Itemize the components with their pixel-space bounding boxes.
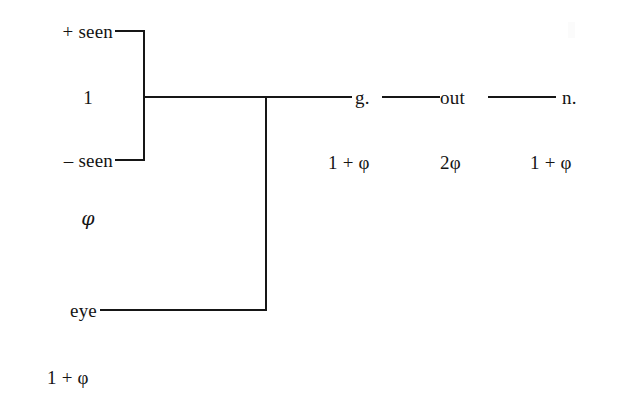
edge-out-to-n-connector [488, 96, 556, 98]
diagram-canvas: + seen – seen 1 φ eye 1 + φ g. out n. 1 … [0, 0, 627, 413]
edge-eye-riser [265, 96, 267, 311]
edge-g-to-out-connector [382, 96, 440, 98]
weight-label-n: 1 + φ [530, 153, 572, 172]
node-out: out [440, 88, 465, 107]
bracket-weight-label: 1 [83, 88, 93, 107]
eye-weight-label: 1 + φ [47, 368, 89, 387]
node-n: n. [562, 88, 577, 107]
edge-bracket-stem [143, 96, 352, 98]
weight-label-out: 2φ [440, 153, 461, 172]
bracket-phi-label: φ [81, 209, 95, 228]
node-plus-seen: + seen [63, 22, 113, 41]
edge-minus-seen-connector [115, 159, 143, 161]
node-eye: eye [70, 301, 97, 320]
weight-label-g: 1 + φ [328, 153, 370, 172]
node-minus-seen: – seen [64, 151, 113, 170]
node-g: g. [355, 88, 370, 107]
edge-eye-connector [100, 309, 267, 311]
edge-plus-seen-connector [115, 30, 143, 32]
scan-artifact [568, 22, 575, 38]
